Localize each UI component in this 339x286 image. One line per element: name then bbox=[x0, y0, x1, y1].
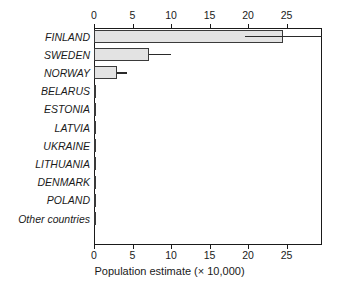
category-label-estonia: ESTONIA bbox=[44, 103, 90, 115]
category-label-other-countries: Other countries bbox=[18, 213, 90, 225]
x-tick-label-top-5: 5 bbox=[121, 10, 145, 21]
bar-latvia bbox=[94, 121, 96, 134]
bar-sweden bbox=[94, 48, 149, 61]
x-tick-top-25 bbox=[287, 24, 288, 28]
category-label-sweden: SWEDEN bbox=[44, 49, 90, 61]
error-bar-finland bbox=[245, 36, 322, 38]
bar-belarus bbox=[94, 85, 96, 98]
x-tick-top-20 bbox=[248, 24, 249, 28]
category-label-denmark: DENMARK bbox=[37, 176, 90, 188]
population-estimate-bar-chart: 00551010151520202525 FINLANDSWEDENNORWAY… bbox=[0, 0, 339, 286]
x-tick-label-top-20: 20 bbox=[236, 10, 260, 21]
category-label-belarus: BELARUS bbox=[41, 85, 90, 97]
x-tick-label-bottom-5: 5 bbox=[121, 250, 145, 261]
category-label-poland: POLAND bbox=[47, 194, 90, 206]
x-tick-label-bottom-10: 10 bbox=[159, 250, 183, 261]
category-label-lithuania: LITHUANIA bbox=[35, 158, 90, 170]
error-bar-norway bbox=[117, 72, 127, 74]
bar-estonia bbox=[94, 103, 96, 116]
category-label-norway: NORWAY bbox=[44, 67, 90, 79]
x-tick-label-bottom-25: 25 bbox=[275, 250, 299, 261]
x-tick-label-top-25: 25 bbox=[275, 10, 299, 21]
x-tick-top-15 bbox=[210, 24, 211, 28]
bar-norway bbox=[94, 66, 117, 79]
x-tick-top-10 bbox=[171, 24, 172, 28]
x-tick-label-bottom-15: 15 bbox=[198, 250, 222, 261]
bar-denmark bbox=[94, 176, 96, 189]
x-tick-top-5 bbox=[133, 24, 134, 28]
bar-lithuania bbox=[94, 157, 96, 170]
bar-poland bbox=[94, 194, 96, 207]
bar-ukraine bbox=[94, 139, 96, 152]
x-tick-label-top-0: 0 bbox=[82, 10, 106, 21]
category-label-ukraine: UKRAINE bbox=[43, 140, 90, 152]
x-tick-label-top-15: 15 bbox=[198, 10, 222, 21]
x-tick-label-bottom-20: 20 bbox=[236, 250, 260, 261]
bar-other-countries bbox=[94, 212, 96, 225]
x-tick-top-0 bbox=[94, 24, 95, 28]
x-axis-title: Population estimate (× 10,000) bbox=[0, 265, 339, 277]
category-label-latvia: LATVIA bbox=[55, 122, 90, 134]
category-label-finland: FINLAND bbox=[45, 31, 90, 43]
x-tick-label-top-10: 10 bbox=[159, 10, 183, 21]
error-bar-sweden bbox=[149, 54, 171, 56]
x-tick-label-bottom-0: 0 bbox=[82, 250, 106, 261]
